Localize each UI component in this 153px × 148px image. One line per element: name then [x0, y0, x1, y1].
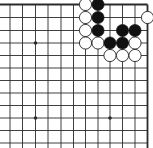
black-stone	[116, 37, 128, 49]
star-point	[34, 116, 38, 120]
go-board	[0, 0, 153, 148]
white-stone	[79, 0, 91, 11]
black-stone	[116, 24, 128, 36]
white-stone	[129, 49, 141, 61]
star-point	[108, 116, 112, 120]
black-stone	[129, 24, 141, 36]
star-point	[34, 41, 38, 45]
go-board-svg	[0, 0, 153, 148]
white-stone	[116, 49, 128, 61]
white-stone	[104, 49, 116, 61]
white-stone	[79, 24, 91, 36]
white-stone	[141, 11, 153, 23]
black-stone	[92, 24, 104, 36]
white-stone	[92, 37, 104, 49]
white-stone	[129, 37, 141, 49]
black-stone	[104, 37, 116, 49]
black-stone	[92, 11, 104, 23]
black-stone	[92, 0, 104, 11]
white-stone	[79, 11, 91, 23]
white-stone	[79, 37, 91, 49]
